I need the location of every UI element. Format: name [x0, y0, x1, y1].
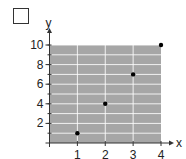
- y-tick-label: 4: [37, 97, 44, 111]
- data-point: [159, 43, 163, 47]
- x-tick-label: 3: [130, 148, 137, 159]
- x-tick-label: 2: [102, 148, 109, 159]
- x-axis-arrow-icon: [169, 141, 174, 146]
- x-tick-label: 1: [74, 148, 81, 159]
- x-axis-label: x: [176, 136, 182, 150]
- data-point: [131, 72, 135, 76]
- y-tick-label: 2: [37, 116, 44, 130]
- y-axis-label: y: [46, 16, 52, 30]
- y-tick-label: 10: [30, 38, 44, 52]
- y-tick-label: 6: [37, 77, 44, 91]
- data-point: [75, 131, 79, 135]
- data-point: [103, 102, 107, 106]
- y-tick-label: 8: [37, 58, 44, 72]
- scatter-chart: yx2468101234: [0, 0, 186, 159]
- x-tick-label: 4: [158, 148, 165, 159]
